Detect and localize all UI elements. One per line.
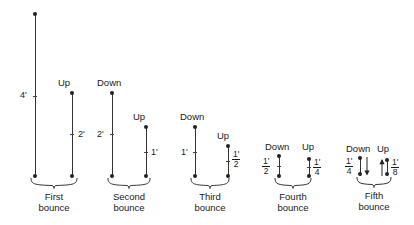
bounce4-down-midtick [277,166,281,167]
bounce1-up-midtick [70,134,74,135]
bounce2-down-top-dot [110,91,114,95]
bounce3-down-midtick [193,152,197,153]
bounce4-down-top-dot [277,154,281,158]
bounce5-down-height-fraction: 1' 4 [345,157,353,176]
bounce3-down-top-dot [193,125,197,129]
bounce1-down-top-dot [33,12,37,16]
bounce3-up-height-fraction: 1' 2 [232,150,240,169]
bounce2-down-midtick [110,134,114,135]
bounce5-caption-line2: bounce [324,201,414,212]
bounce5-up-fraction-denominator: 8 [391,167,399,177]
bounce3-down-height-label: 1' [181,148,188,157]
bounce2-brace [107,177,151,189]
bounce3-up-fraction-denominator: 2 [232,159,240,169]
bounce4-down-height-fraction: 1' 2 [262,157,270,176]
bounce5-down-fraction-numerator: 1' [345,157,353,166]
bounce2-down-label: Down [97,78,121,88]
bounce3-up-midtick [226,161,230,162]
bounce4-up-label: Up [302,142,314,152]
bounce4-brace [274,177,312,189]
bounce3-up-label: Up [217,131,229,141]
bounce5-down-label: Down [346,144,370,154]
bounce4-down-fraction-denominator: 2 [262,166,270,176]
bounce1-up-top-dot [70,91,74,95]
bounce4-down-fraction-numerator: 1' [262,157,270,166]
bounce1-up-label: Up [58,78,70,88]
bounce5-up-top-dot [385,158,389,162]
bounce2-down-height-label: 2' [97,130,104,139]
bounce2-up-top-dot [144,125,148,129]
bounce5-down-arrow-icon [364,157,370,177]
bounce4-up-midtick [307,167,311,168]
bounce2-down-line [112,94,113,176]
bounce1-up-line [72,94,73,176]
bounce5-up-height-fraction: 1' 8 [391,158,399,177]
bounce4-up-fraction-numerator: 1' [313,158,321,167]
bouncing-ball-diagram: 4' Up 2' First bounce Down 2' Up 1' Seco… [0,0,414,225]
bounce3-up-top-dot [226,144,230,148]
bounce4-up-fraction-denominator: 4 [313,167,321,177]
bounce1-brace [30,177,78,189]
bounce5-caption-line1: Fifth [324,190,414,201]
bounce1-down-height-label: 4' [20,91,27,100]
bounce1-up-height-label: 2' [78,130,85,139]
bounce2-up-height-label: 1' [151,148,158,157]
bounce4-up-top-dot [307,157,311,161]
bounce5-down-top-dot [358,156,362,160]
bounce5-up-fraction-numerator: 1' [391,158,399,167]
bounce3-down-label: Down [180,112,204,122]
bounce1-down-midtick [33,96,37,97]
bounce2-up-midtick [144,152,148,153]
bounce3-up-fraction-numerator: 1' [232,150,240,159]
bounce2-up-label: Up [133,112,145,122]
bounce5-up-arrow-icon [379,158,385,178]
bounce5-up-label: Up [377,144,389,154]
bounce5-down-fraction-denominator: 4 [345,166,353,176]
bounce4-up-height-fraction: 1' 4 [313,158,321,177]
bounce5-brace [356,176,392,188]
bounce3-brace [190,177,230,189]
bounce4-down-label: Down [265,142,289,152]
